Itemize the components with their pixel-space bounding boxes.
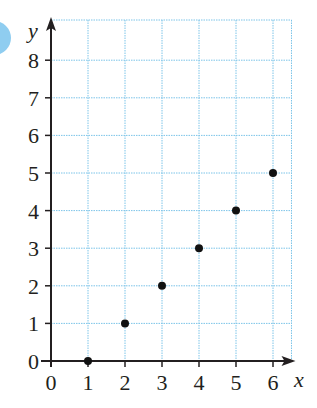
y-tick-label: 1 [28,311,39,336]
data-point [195,244,203,252]
data-point [84,357,92,365]
data-point [269,169,277,177]
y-tick-label: 6 [28,123,39,148]
y-tick-label: 8 [28,48,39,73]
y-tick-label: 7 [28,86,39,111]
x-axis-label: x [293,367,304,392]
x-tick-label: 4 [194,370,205,395]
data-point [232,207,240,215]
grid [51,20,292,361]
y-tick-label: 4 [28,199,39,224]
x-tick-label: 0 [46,370,57,395]
x-tick-label: 1 [83,370,94,395]
y-axis-label: y [26,18,38,43]
corner-circle-decoration [0,21,11,55]
data-point [121,319,129,327]
scatter-plot: 0123456 012345678 x y [0,0,317,408]
data-point [158,282,166,290]
y-tick-label: 3 [28,236,39,261]
data-points [84,169,277,365]
axes [41,17,296,367]
x-tick-label: 3 [157,370,168,395]
x-tick-label: 2 [120,370,131,395]
y-tick-label: 0 [28,349,39,374]
y-axis-ticks: 012345678 [28,48,51,374]
y-tick-label: 2 [28,274,39,299]
x-tick-label: 5 [231,370,242,395]
y-tick-label: 5 [28,161,39,186]
x-tick-label: 6 [268,370,279,395]
x-axis-ticks: 0123456 [46,361,279,395]
